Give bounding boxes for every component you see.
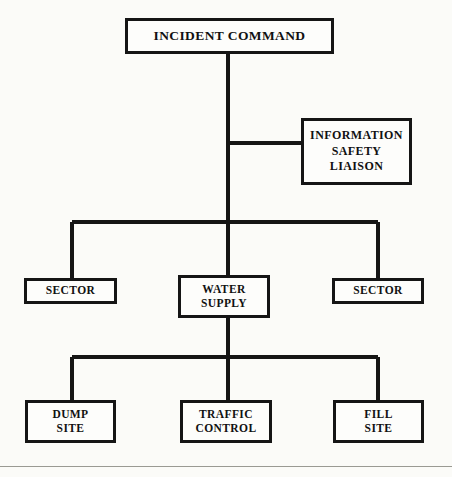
node-label-line: LIAISON	[330, 159, 383, 174]
node-label-line: SECTOR	[353, 284, 402, 297]
node-label-line: SUPPLY	[201, 297, 247, 310]
node-label-line: SITE	[365, 422, 393, 435]
node-incident-command[interactable]: INCIDENT COMMAND	[125, 18, 334, 54]
node-label-line: INFORMATION	[310, 128, 403, 143]
node-label-line: FILL	[364, 408, 392, 421]
node-label-line: DUMP	[52, 408, 88, 421]
node-label-line: WATER	[202, 283, 245, 296]
node-label-line: TRAFFIC	[199, 408, 253, 421]
node-sector-left[interactable]: SECTOR	[24, 278, 117, 304]
node-water-supply[interactable]: WATER SUPPLY	[178, 275, 270, 318]
node-label-line: INCIDENT COMMAND	[153, 28, 305, 44]
node-fill-site[interactable]: FILL SITE	[333, 400, 424, 443]
node-information-safety-liaison[interactable]: INFORMATION SAFETY LIAISON	[301, 118, 412, 185]
node-label-line: CONTROL	[196, 422, 257, 435]
node-label-line: SITE	[57, 422, 85, 435]
node-traffic-control[interactable]: TRAFFIC CONTROL	[180, 400, 272, 443]
page-divider-rule	[0, 466, 452, 467]
node-dump-site[interactable]: DUMP SITE	[25, 400, 116, 443]
node-sector-right[interactable]: SECTOR	[332, 278, 424, 304]
node-label-line: SECTOR	[46, 284, 95, 297]
incident-command-org-chart: INCIDENT COMMAND INFORMATION SAFETY LIAI…	[0, 0, 452, 477]
node-label-line: SAFETY	[332, 144, 382, 159]
